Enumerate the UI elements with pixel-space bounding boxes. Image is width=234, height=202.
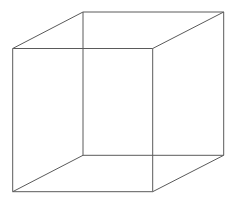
connector-top-right xyxy=(153,12,224,49)
connector-bottom-right xyxy=(153,155,224,191)
connector-top-left xyxy=(13,12,83,49)
cube-wireframe xyxy=(0,0,234,202)
necker-cube-diagram xyxy=(0,0,234,202)
connector-bottom-left xyxy=(13,155,83,191)
